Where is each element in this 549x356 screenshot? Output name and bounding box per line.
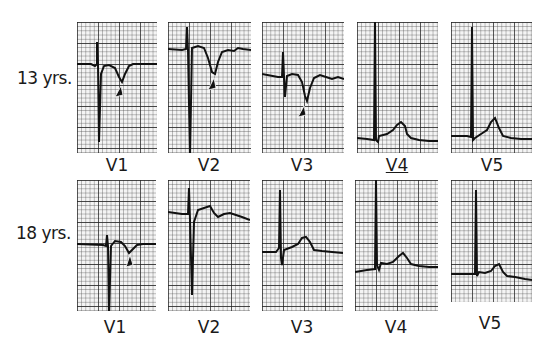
lead-label-13y-v1: V1 — [97, 155, 137, 175]
lead-label-18y-v2: V2 — [189, 317, 229, 337]
ecg-panel-18y-v4 — [355, 180, 438, 311]
ecg-panel-13y-v1 — [77, 22, 157, 153]
ecg-panel-13y-v3 — [262, 22, 344, 153]
ecg-trace-18y-v2 — [168, 180, 250, 311]
lead-label-13y-v5: V5 — [472, 155, 512, 175]
ecg-trace-18y-v4 — [355, 180, 438, 311]
ecg-panel-18y-v5 — [451, 180, 532, 302]
ecg-trace-13y-v4 — [357, 22, 438, 153]
ecg-trace-13y-v2 — [168, 22, 251, 153]
ecg-panel-13y-v5 — [451, 22, 532, 153]
row-label-13-yrs: 13 yrs. — [17, 68, 72, 88]
ecg-trace-18y-v5 — [451, 180, 532, 302]
ecg-panel-13y-v4 — [357, 22, 438, 153]
ecg-trace-18y-v1 — [77, 180, 156, 311]
ecg-panel-18y-v2 — [168, 180, 250, 311]
lead-label-18y-v3: V3 — [282, 317, 322, 337]
ecg-panel-18y-v3 — [262, 180, 343, 311]
ecg-trace-13y-v1 — [77, 22, 157, 153]
ecg-panel-18y-v1 — [77, 180, 156, 311]
lead-label-18y-v1: V1 — [95, 317, 135, 337]
lead-label-18y-v4: V4 — [376, 317, 416, 337]
lead-label-13y-v3: V3 — [282, 155, 322, 175]
ecg-trace-13y-v5 — [451, 22, 532, 153]
lead-label-18y-v5: V5 — [470, 313, 510, 333]
ecg-trace-13y-v3 — [262, 22, 344, 153]
ecg-panel-13y-v2 — [168, 22, 251, 153]
ecg-trace-18y-v3 — [262, 180, 343, 311]
row-label-18-yrs: 18 yrs. — [16, 223, 71, 243]
lead-label-13y-v4: V4 — [377, 155, 417, 175]
lead-label-13y-v2: V2 — [189, 155, 229, 175]
